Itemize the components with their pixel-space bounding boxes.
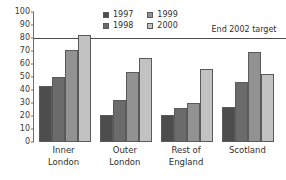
x-axis-label: Rest of England — [156, 144, 217, 169]
bar-1997[interactable] — [39, 86, 52, 142]
legend-item-2000[interactable]: 2000 — [147, 22, 177, 30]
bar-1999[interactable] — [126, 72, 139, 142]
bar-2000[interactable] — [139, 58, 152, 143]
bar-2000[interactable] — [200, 69, 213, 142]
legend: 1997199919982000 — [103, 9, 178, 31]
bar-1999[interactable] — [248, 52, 261, 142]
bar-chart: 0102030405060708090100 End 2002 target I… — [0, 0, 286, 180]
bar-1998[interactable] — [174, 108, 187, 142]
x-axis-labels: Inner LondonOuter LondonRest of EnglandS… — [33, 144, 278, 169]
plot-area: 0102030405060708090100 End 2002 target — [33, 12, 278, 142]
y-axis-tick-label: 80 — [20, 34, 30, 42]
legend-label: 2000 — [157, 22, 177, 30]
bar-1998[interactable] — [52, 77, 65, 142]
x-axis-label: Outer London — [94, 144, 155, 169]
bar-1999[interactable] — [187, 103, 200, 142]
bar-1997[interactable] — [100, 115, 113, 142]
legend-swatch-icon — [103, 12, 109, 18]
y-axis-tick-label: 40 — [20, 86, 30, 94]
y-axis-tick-label: 100 — [15, 8, 30, 16]
x-axis-label: Scotland — [217, 144, 278, 169]
bar-1998[interactable] — [113, 100, 126, 142]
y-axis-tick-label: 10 — [20, 125, 30, 133]
x-axis-label: Inner London — [33, 144, 94, 169]
bar-1999[interactable] — [65, 50, 78, 142]
y-axis-tick-label: 20 — [20, 112, 30, 120]
bar-2000[interactable] — [78, 35, 91, 142]
y-axis-tick-label: 50 — [20, 73, 30, 81]
legend-item-1997[interactable]: 1997 — [103, 11, 133, 19]
bar-group — [222, 12, 274, 142]
y-axis-tick-label: 70 — [20, 47, 30, 55]
y-axis-tick-label: 90 — [20, 21, 30, 29]
bar-groups — [34, 12, 278, 142]
y-axis-tick-label: 30 — [20, 99, 30, 107]
legend-item-1998[interactable]: 1998 — [103, 22, 133, 30]
y-axis-tick-label: 0 — [25, 138, 30, 146]
bar-group — [39, 12, 91, 142]
bar-group — [161, 12, 213, 142]
bar-1997[interactable] — [222, 107, 235, 142]
bar-1997[interactable] — [161, 115, 174, 142]
bar-1998[interactable] — [235, 82, 248, 142]
legend-swatch-icon — [103, 23, 109, 29]
legend-label: 1998 — [113, 22, 133, 30]
bar-group — [100, 12, 152, 142]
legend-item-1999[interactable]: 1999 — [147, 11, 177, 19]
legend-swatch-icon — [147, 23, 153, 29]
legend-label: 1999 — [157, 11, 177, 19]
y-axis-tick-label: 60 — [20, 60, 30, 68]
legend-label: 1997 — [113, 11, 133, 19]
bar-2000[interactable] — [261, 74, 274, 142]
legend-swatch-icon — [147, 12, 153, 18]
